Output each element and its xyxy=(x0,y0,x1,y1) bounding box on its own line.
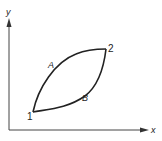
path-b-label: B xyxy=(82,93,88,103)
y-axis: y xyxy=(5,7,12,130)
x-axis: x xyxy=(9,125,156,135)
y-axis-label: y xyxy=(5,7,11,17)
point-2-label: 2 xyxy=(108,43,114,54)
y-axis-arrow-icon xyxy=(7,18,12,27)
process-path-diagram: y x 1 2 A B xyxy=(0,0,162,141)
x-axis-arrow-icon xyxy=(140,128,149,133)
x-axis-label: x xyxy=(150,125,156,135)
path-a-curve xyxy=(33,49,106,112)
point-1-label: 1 xyxy=(27,111,33,122)
path-b-curve xyxy=(33,49,106,112)
path-a-label: A xyxy=(47,60,54,70)
